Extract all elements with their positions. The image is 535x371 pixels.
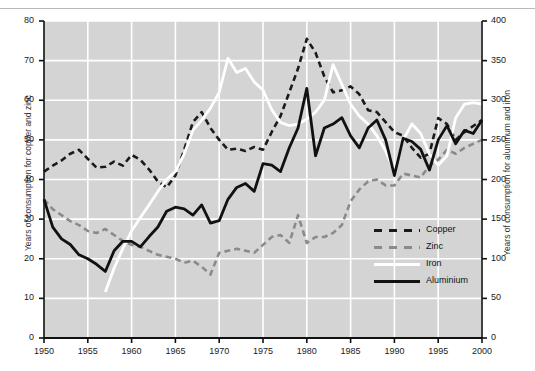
right-axis-tick-label: 150 <box>491 213 519 223</box>
left-axis-tick-label: 70 <box>10 55 34 65</box>
right-axis-tick-label: 200 <box>491 174 519 184</box>
legend-item-aluminium: Aluminium <box>374 273 474 290</box>
right-axis-tick-label: 50 <box>491 292 519 302</box>
chart-legend: CopperZincIronAluminium <box>374 222 474 290</box>
left-axis-tick-label: 50 <box>10 134 34 144</box>
legend-item-label: Copper <box>426 224 456 234</box>
right-axis-tick-label: 300 <box>491 94 519 104</box>
chart-svg <box>0 0 535 371</box>
aluminium-solid-swatch <box>374 280 420 283</box>
legend-item-copper: Copper <box>374 222 474 239</box>
iron-solid-swatch <box>374 263 420 266</box>
left-axis-tick-label: 60 <box>10 94 34 104</box>
left-axis-tick-label: 30 <box>10 213 34 223</box>
x-axis-tick-label: 1975 <box>243 346 283 356</box>
x-axis-tick-label: 2000 <box>462 346 502 356</box>
left-axis-tick-label: 80 <box>10 15 34 25</box>
legend-item-zinc: Zinc <box>374 239 474 256</box>
x-axis-tick-label: 1955 <box>68 346 108 356</box>
x-axis-tick-label: 1985 <box>331 346 371 356</box>
right-axis-tick-label: 350 <box>491 55 519 65</box>
x-axis-tick-label: 1960 <box>112 346 152 356</box>
zinc-dashed-swatch <box>374 246 420 249</box>
left-axis-tick-label: 40 <box>10 174 34 184</box>
right-axis-tick-label: 400 <box>491 15 519 25</box>
copper-dashed-swatch <box>374 229 420 232</box>
legend-item-label: Zinc <box>426 241 443 251</box>
x-axis-tick-label: 1995 <box>418 346 458 356</box>
left-axis-tick-label: 10 <box>10 292 34 302</box>
legend-item-label: Iron <box>426 258 442 268</box>
right-axis-tick-label: 250 <box>491 134 519 144</box>
left-axis-tick-label: 20 <box>10 253 34 263</box>
chart-screenshot: Years of consumption for copper and zinc… <box>0 0 535 371</box>
right-axis-tick-label: 0 <box>491 332 519 342</box>
x-axis-tick-label: 1980 <box>287 346 327 356</box>
right-axis-tick-label: 100 <box>491 253 519 263</box>
left-axis-tick-label: 0 <box>10 332 34 342</box>
x-axis-tick-label: 1965 <box>155 346 195 356</box>
chart-figure <box>0 0 535 371</box>
x-axis-tick-label: 1950 <box>24 346 64 356</box>
legend-item-label: Aluminium <box>426 275 468 285</box>
x-axis-tick-label: 1970 <box>199 346 239 356</box>
legend-item-iron: Iron <box>374 256 474 273</box>
x-axis-tick-label: 1990 <box>374 346 414 356</box>
